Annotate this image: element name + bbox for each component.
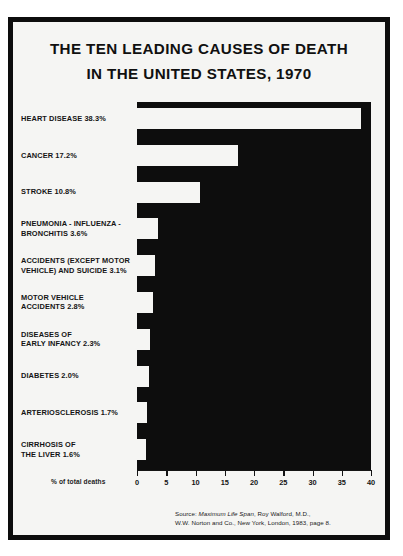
bar xyxy=(137,366,149,387)
poster-body: THE TEN LEADING CAUSES OF DEATH IN THE U… xyxy=(13,22,385,535)
category-label: ARTERIOSCLEROSIS 1.7% xyxy=(21,408,137,418)
category-label-line: PNEUMONIA - INFLUENZA - xyxy=(21,219,137,229)
x-axis-tick xyxy=(196,470,197,476)
category-label-line: HEART DISEASE 38.3% xyxy=(21,114,137,124)
category-label-line: VEHICLE) AND SUICIDE 3.1% xyxy=(21,266,137,276)
x-axis-tick-label: 0 xyxy=(127,478,147,487)
category-label-column: HEART DISEASE 38.3%CANCER 17.2%STROKE 10… xyxy=(21,102,137,470)
category-label-line: ACCIDENTS (EXCEPT MOTOR xyxy=(21,256,137,266)
x-axis-tick xyxy=(254,470,255,476)
category-label: DIABETES 2.0% xyxy=(21,371,137,381)
x-axis-title: % of total deaths xyxy=(51,478,105,485)
category-label: STROKE 10.8% xyxy=(21,187,137,197)
category-label-line: ARTERIOSCLEROSIS 1.7% xyxy=(21,408,137,418)
bar xyxy=(137,255,155,276)
bar xyxy=(137,145,238,166)
category-label-line: THE LIVER 1.6% xyxy=(21,450,137,460)
category-label: DISEASES OFEARLY INFANCY 2.3% xyxy=(21,330,137,349)
x-axis-tick-label: 20 xyxy=(244,478,264,487)
x-axis-tick xyxy=(225,470,226,476)
source-rest: , Roy Walford, M.D., xyxy=(254,510,310,517)
chart-plot-area xyxy=(137,102,371,470)
x-axis-tick-label: 5 xyxy=(156,478,176,487)
bar xyxy=(137,439,146,460)
category-label-line: MOTOR VEHICLE xyxy=(21,293,137,303)
bar xyxy=(137,292,153,313)
category-label-line: DIABETES 2.0% xyxy=(21,371,137,381)
x-axis: 0510152025303540 xyxy=(137,470,371,500)
x-axis-tick xyxy=(371,470,372,476)
bar xyxy=(137,329,150,350)
x-axis-tick xyxy=(342,470,343,476)
source-line-2: W.W. Norton and Co., New York, London, 1… xyxy=(175,519,331,526)
title-line-1: THE TEN LEADING CAUSES OF DEATH xyxy=(13,36,385,61)
source-title: Maximum Life Span xyxy=(198,510,254,517)
category-label: CANCER 17.2% xyxy=(21,151,137,161)
x-axis-tick xyxy=(137,470,138,476)
source-citation: Source: Maximum Life Span, Roy Walford, … xyxy=(175,509,391,527)
category-label-line: STROKE 10.8% xyxy=(21,187,137,197)
title-line-2: IN THE UNITED STATES, 1970 xyxy=(13,61,385,86)
x-axis-tick xyxy=(166,470,167,476)
page-title: THE TEN LEADING CAUSES OF DEATH IN THE U… xyxy=(13,36,385,86)
category-label: MOTOR VEHICLEACCIDENTS 2.8% xyxy=(21,293,137,312)
bar xyxy=(137,218,158,239)
category-label: HEART DISEASE 38.3% xyxy=(21,114,137,124)
bar xyxy=(137,108,361,129)
category-label-line: ACCIDENTS 2.8% xyxy=(21,302,137,312)
category-label-line: CANCER 17.2% xyxy=(21,151,137,161)
x-axis-tick-label: 40 xyxy=(361,478,381,487)
category-label-line: CIRRHOSIS OF xyxy=(21,440,137,450)
x-axis-tick xyxy=(283,470,284,476)
category-label-line: EARLY INFANCY 2.3% xyxy=(21,339,137,349)
x-axis-tick-label: 25 xyxy=(273,478,293,487)
x-axis-tick xyxy=(313,470,314,476)
x-axis-tick-label: 10 xyxy=(186,478,206,487)
x-axis-tick-label: 35 xyxy=(332,478,352,487)
category-label: PNEUMONIA - INFLUENZA -BRONCHITIS 3.6% xyxy=(21,219,137,238)
bar xyxy=(137,402,147,423)
category-label-line: BRONCHITIS 3.6% xyxy=(21,229,137,239)
x-axis-tick-label: 15 xyxy=(215,478,235,487)
source-prefix: Source: xyxy=(175,510,198,517)
x-axis-tick-label: 30 xyxy=(303,478,323,487)
category-label: ACCIDENTS (EXCEPT MOTORVEHICLE) AND SUIC… xyxy=(21,256,137,275)
category-label-line: DISEASES OF xyxy=(21,330,137,340)
bar xyxy=(137,182,200,203)
poster-frame: THE TEN LEADING CAUSES OF DEATH IN THE U… xyxy=(8,17,390,540)
category-label: CIRRHOSIS OFTHE LIVER 1.6% xyxy=(21,440,137,459)
